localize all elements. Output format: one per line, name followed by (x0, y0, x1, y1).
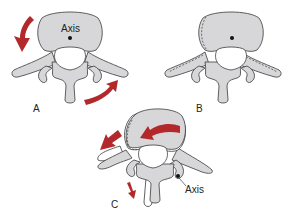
panel-label-c: C (111, 199, 118, 210)
vertebra-rotation-diagram: Axis A B Axis (0, 0, 294, 212)
panel-a: Axis A (12, 12, 128, 114)
transverse-process-right (84, 52, 128, 77)
rotation-arrow-right-icon (84, 80, 118, 105)
transverse-process-left (165, 52, 209, 77)
axis-point (230, 36, 234, 40)
panel-label-b: B (196, 103, 203, 114)
transverse-process-left (12, 52, 56, 77)
axis-label-c: Axis (185, 184, 204, 195)
axis-point (176, 174, 180, 178)
panel-c: Axis C (98, 109, 213, 210)
panel-b: B (165, 12, 281, 114)
axis-point (68, 36, 72, 40)
spinous-process (136, 164, 174, 203)
axis-label-a: Axis (61, 23, 80, 34)
panel-label-a: A (33, 103, 40, 114)
rotation-arrow-down-icon (127, 182, 136, 199)
vertebral-body (199, 12, 264, 51)
rotation-arrow-left-icon (14, 16, 34, 52)
